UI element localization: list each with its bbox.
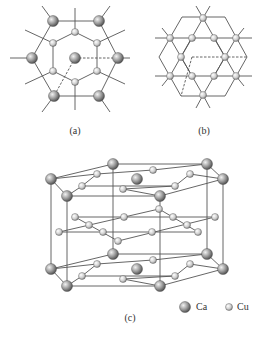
cu-atom: [170, 214, 177, 221]
cu-atom: [120, 186, 127, 193]
cu-atom: [200, 15, 207, 22]
cu-atom: [72, 29, 79, 36]
bond-line: [160, 269, 223, 286]
cu-atom: [94, 68, 101, 75]
ca-atom: [218, 174, 229, 185]
cu-atom: [195, 229, 202, 236]
panel-c-label: (c): [124, 312, 135, 323]
bond-line: [118, 217, 215, 241]
cu-atom: [189, 35, 196, 42]
bond-line: [25, 71, 53, 84]
bond-line: [32, 58, 54, 96]
legend-ca-icon: [180, 302, 191, 313]
ca-atom: [202, 159, 213, 170]
cu-atom: [184, 222, 191, 229]
bond-line: [97, 170, 153, 174]
cu-atom: [94, 261, 101, 268]
legend-cu-label: Cu: [237, 301, 249, 312]
ca-atom: [94, 16, 105, 27]
bond-line: [160, 179, 223, 196]
bond-line: [159, 209, 198, 232]
cu-atom: [50, 68, 57, 75]
bond-line: [97, 30, 125, 43]
cu-atom: [167, 35, 174, 42]
cu-atom: [150, 257, 157, 264]
cu-atom: [212, 214, 219, 221]
ca-atom: [113, 53, 124, 64]
cu-atom: [211, 35, 218, 42]
bond-line: [153, 164, 207, 170]
cu-atom: [56, 229, 63, 236]
cu-atom: [200, 92, 207, 99]
panel-a-label: (a): [69, 125, 80, 136]
cu-atom: [115, 238, 122, 245]
cu-atom: [167, 73, 174, 80]
bond-line: [25, 30, 53, 43]
cu-atom: [189, 73, 196, 80]
bond-line: [32, 21, 53, 58]
ca-atom: [132, 264, 143, 275]
bond-line: [75, 217, 118, 241]
ca-atom: [46, 174, 57, 185]
cu-atom: [178, 54, 185, 61]
bond-line: [51, 164, 113, 179]
bond-line: [51, 254, 113, 269]
cu-atom: [72, 79, 79, 86]
ca-atom: [155, 191, 166, 202]
ca-atom: [70, 53, 81, 64]
cu-atom: [100, 229, 107, 236]
bond-line: [97, 260, 153, 264]
cu-atom: [150, 167, 157, 174]
ca-atom: [27, 53, 38, 64]
cu-atom: [233, 35, 240, 42]
cu-atom: [233, 73, 240, 80]
legend-ca-label: Ca: [196, 301, 207, 312]
cu-atom: [187, 171, 194, 178]
cu-atom: [187, 261, 194, 268]
cu-atom: [94, 171, 101, 178]
ca-atom: [62, 281, 73, 292]
cu-atom: [211, 73, 218, 80]
ca-atom: [108, 159, 119, 170]
bond-line: [51, 174, 97, 179]
cu-atom: [172, 273, 179, 280]
bond-line: [153, 254, 207, 260]
ca-atom: [48, 16, 59, 27]
ca-atom: [49, 91, 60, 102]
panel-c-3d-unit-cell: [46, 159, 229, 292]
crystal-structure-figure: [0, 0, 261, 337]
ca-atom: [132, 174, 143, 185]
ca-atom: [62, 191, 73, 202]
bond-line: [51, 264, 97, 269]
cu-atom: [94, 40, 101, 47]
cu-atom: [86, 222, 93, 229]
cu-atom: [72, 214, 79, 221]
ca-atom: [218, 264, 229, 275]
ca-atom: [94, 91, 105, 102]
bond-line: [99, 21, 118, 58]
cu-atom: [222, 54, 229, 61]
cu-atom: [120, 276, 127, 283]
cu-atom: [50, 40, 57, 47]
cu-atom: [149, 229, 156, 236]
panel-b-label: (b): [198, 125, 210, 136]
ca-atom: [202, 249, 213, 260]
cu-atom: [172, 183, 179, 190]
ca-atom: [46, 264, 57, 275]
cu-atom: [121, 214, 128, 221]
ca-atom: [155, 281, 166, 292]
dashed-cell-edge: [54, 58, 75, 96]
cu-atom: [156, 206, 163, 213]
ca-atom: [108, 249, 119, 260]
legend-cu-icon: [226, 304, 233, 311]
panel-a-top-view-ca-cu: [10, 6, 130, 112]
bond-line: [123, 276, 175, 279]
cu-atom: [79, 183, 86, 190]
bond-line: [99, 58, 118, 96]
panel-b-cu-kagome-layer: [155, 6, 252, 108]
cu-atom: [79, 273, 86, 280]
